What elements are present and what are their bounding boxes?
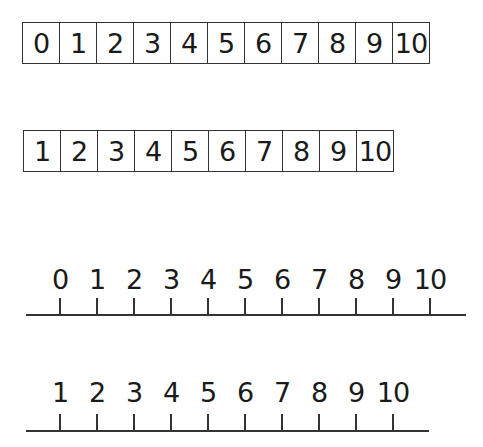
- tick-mark: [318, 414, 320, 430]
- number-cell: 2: [61, 130, 98, 172]
- tick-mark: [429, 298, 431, 314]
- tick-label: 10: [375, 379, 411, 406]
- number-cell: 8: [319, 22, 356, 64]
- tick-mark: [133, 298, 135, 314]
- tick-label: 5: [227, 266, 263, 293]
- number-cell: 5: [208, 22, 245, 64]
- number-cell: 7: [282, 22, 319, 64]
- tick-label: 10: [412, 266, 448, 293]
- number-strip-0-to-10: 012345678910: [22, 22, 430, 64]
- tick-label: 3: [153, 266, 189, 293]
- tick-mark: [59, 298, 61, 314]
- tick-mark: [281, 298, 283, 314]
- number-cell: 10: [393, 22, 430, 64]
- tick-label: 2: [79, 379, 115, 406]
- number-cell: 6: [245, 22, 282, 64]
- number-cell: 0: [23, 22, 60, 64]
- tick-label: 4: [190, 266, 226, 293]
- tick-label: 0: [42, 266, 78, 293]
- number-cell: 5: [172, 130, 209, 172]
- tick-label: 7: [264, 379, 300, 406]
- tick-mark: [355, 414, 357, 430]
- tick-mark: [96, 414, 98, 430]
- tick-label: 2: [116, 266, 152, 293]
- tick-mark: [96, 298, 98, 314]
- tick-label: 3: [116, 379, 152, 406]
- number-cell: 7: [246, 130, 283, 172]
- tick-mark: [244, 298, 246, 314]
- tick-mark: [207, 298, 209, 314]
- tick-mark: [392, 414, 394, 430]
- number-cell: 1: [60, 22, 97, 64]
- number-cell: 1: [24, 130, 61, 172]
- tick-label: 4: [153, 379, 189, 406]
- number-cell: 4: [135, 130, 172, 172]
- number-cell: 2: [97, 22, 134, 64]
- tick-label: 8: [338, 266, 374, 293]
- number-cell: 3: [98, 130, 135, 172]
- tick-label: 5: [190, 379, 226, 406]
- tick-label: 6: [264, 266, 300, 293]
- number-cell: 6: [209, 130, 246, 172]
- number-cell: 9: [356, 22, 393, 64]
- tick-mark: [170, 414, 172, 430]
- tick-mark: [244, 414, 246, 430]
- tick-mark: [281, 414, 283, 430]
- tick-mark: [170, 298, 172, 314]
- axis-line: [26, 430, 429, 432]
- tick-mark: [133, 414, 135, 430]
- tick-label: 7: [301, 266, 337, 293]
- axis-line: [26, 314, 466, 316]
- tick-label: 6: [227, 379, 263, 406]
- tick-mark: [318, 298, 320, 314]
- number-cell: 4: [171, 22, 208, 64]
- number-cell: 9: [320, 130, 357, 172]
- tick-label: 8: [301, 379, 337, 406]
- tick-label: 1: [42, 379, 78, 406]
- tick-label: 9: [338, 379, 374, 406]
- tick-mark: [392, 298, 394, 314]
- tick-mark: [59, 414, 61, 430]
- tick-mark: [355, 298, 357, 314]
- tick-label: 9: [375, 266, 411, 293]
- tick-mark: [207, 414, 209, 430]
- number-cell: 8: [283, 130, 320, 172]
- number-cell: 3: [134, 22, 171, 64]
- number-strip-1-to-10: 12345678910: [23, 130, 394, 172]
- tick-label: 1: [79, 266, 115, 293]
- number-cell: 10: [357, 130, 394, 172]
